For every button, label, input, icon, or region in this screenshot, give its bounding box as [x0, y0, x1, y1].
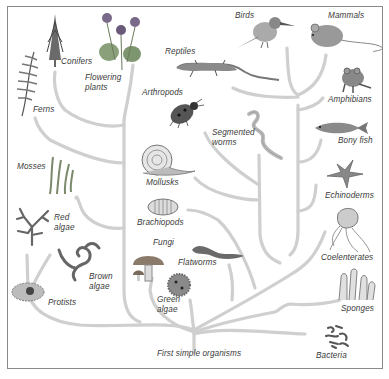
snail-icon [133, 143, 195, 179]
label-segmented-worms: Segmented worms [212, 128, 255, 148]
label-protists: Protists [48, 298, 76, 308]
sponge-icon [335, 268, 377, 302]
label-conifers: Conifers [61, 57, 92, 67]
lizard-icon [175, 58, 280, 84]
label-red-algae: Red algae [54, 213, 75, 233]
frog-icon [339, 66, 373, 94]
label-brown-algae: Brown algae [89, 272, 113, 292]
label-coelenterates: Coelenterates [321, 253, 373, 263]
fish-icon [313, 121, 369, 135]
label-bony-fish: Bony fish [338, 136, 373, 146]
label-reptiles: Reptiles [165, 47, 195, 57]
label-mammals: Mammals [328, 11, 364, 21]
ladybug-icon [164, 98, 204, 128]
bacteria-icon [322, 322, 352, 350]
label-arthropods: Arthropods [142, 88, 183, 98]
label-ferns: Ferns [33, 105, 54, 115]
label-green-algae: Green algae [157, 295, 180, 315]
label-amphibians: Amphibians [328, 95, 372, 105]
label-flatworms: Flatworms [178, 258, 217, 268]
protist-icon [10, 280, 46, 304]
label-echinoderms: Echinoderms [325, 191, 374, 201]
red-algae-icon [14, 205, 52, 247]
label-bacteria: Bacteria [316, 351, 347, 361]
label-flowering-plants: Flowering plants [85, 73, 121, 93]
label-mosses: Mosses [17, 162, 46, 172]
label-brachiopods: Brachiopods [137, 218, 184, 228]
moss-icon [45, 152, 75, 196]
label-first-simple-organisms: First simple organisms [157, 349, 241, 359]
label-fungi: Fungi [153, 238, 174, 248]
violet-flower-icon [97, 10, 147, 72]
mushroom-icon [130, 247, 168, 285]
label-sponges: Sponges [341, 304, 374, 314]
jellyfish-icon [328, 206, 372, 254]
starfish-icon [325, 158, 365, 190]
label-mollusks: Mollusks [146, 178, 179, 188]
mouse-icon [305, 22, 385, 58]
label-birds: Birds [235, 11, 254, 21]
brachiopod-shell-icon [143, 198, 179, 218]
